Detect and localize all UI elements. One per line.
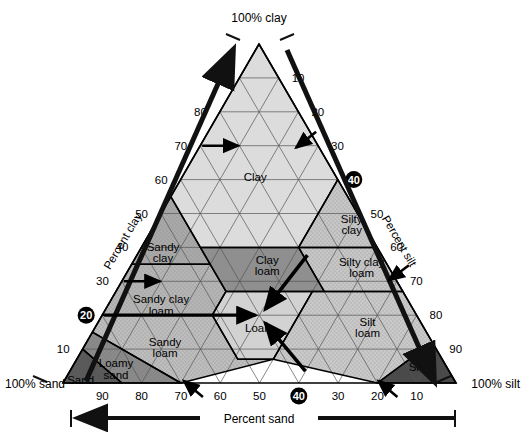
ternary-diagram-svg: ClaySiltyclaySandyclayClayloamSilty clay… bbox=[0, 0, 525, 435]
tick-sand-40: 40 bbox=[293, 390, 305, 402]
tick-silt-70: 70 bbox=[410, 275, 423, 287]
tick-sand-20: 20 bbox=[371, 390, 384, 402]
label-loamy-sand: Loamysand bbox=[99, 357, 134, 381]
axis-end-tick-clay bbox=[226, 34, 240, 40]
axis-title-sand: Percent sand bbox=[224, 412, 295, 426]
tick-silt-90: 90 bbox=[449, 343, 462, 355]
tick-sand-60: 60 bbox=[214, 390, 227, 402]
tick-clay-30: 30 bbox=[96, 275, 109, 287]
axis-start-tick-silt bbox=[280, 34, 294, 40]
soil-texture-triangle-figure: ClaySiltyclaySandyclayClayloamSilty clay… bbox=[0, 0, 525, 435]
tick-sand-70: 70 bbox=[175, 390, 188, 402]
tick-clay-20: 20 bbox=[80, 309, 92, 321]
tick-sand-80: 80 bbox=[135, 390, 148, 402]
label-silt: Silt bbox=[409, 361, 426, 373]
tick-clay-60: 60 bbox=[155, 174, 168, 186]
tick-sand-50: 50 bbox=[253, 390, 266, 402]
label-sandy-loam: Sandyloam bbox=[149, 336, 182, 360]
corner-label-silt: 100% silt bbox=[471, 377, 520, 391]
tick-silt-40: 40 bbox=[348, 174, 360, 186]
corner-label-sand: 100% sand bbox=[5, 377, 65, 391]
label-clay: Clay bbox=[244, 171, 267, 183]
tick-silt-80: 80 bbox=[430, 309, 443, 321]
label-clay-loam: Clayloam bbox=[255, 254, 280, 278]
tick-clay-10: 10 bbox=[57, 343, 70, 355]
tick-sand-30: 30 bbox=[332, 390, 345, 402]
tick-sand-90: 90 bbox=[96, 390, 109, 402]
corner-label-clay: 100% clay bbox=[231, 11, 286, 25]
tick-sand-10: 10 bbox=[410, 390, 423, 402]
tick-clay-70: 70 bbox=[174, 140, 187, 152]
